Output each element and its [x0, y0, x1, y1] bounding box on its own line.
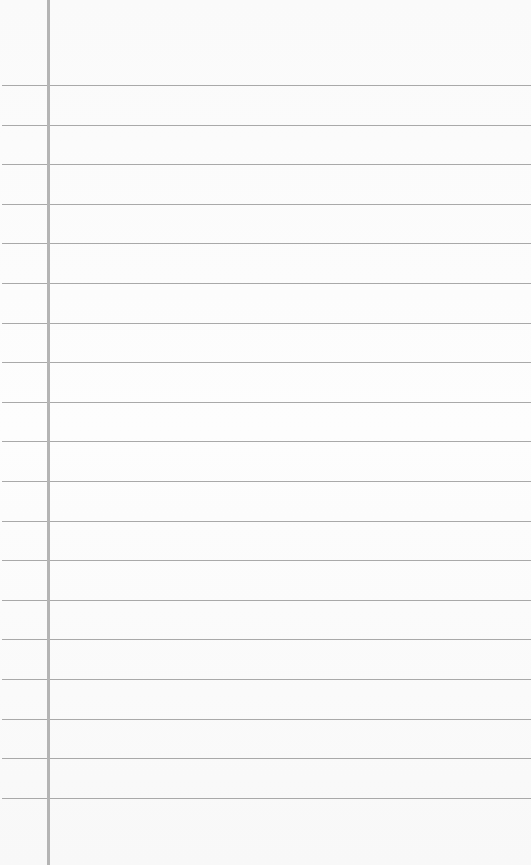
ruled-line	[2, 243, 531, 244]
ruled-line	[2, 362, 531, 363]
ruled-line	[2, 85, 531, 86]
ruled-line	[2, 164, 531, 165]
notepad-page	[0, 0, 531, 865]
ruled-line	[2, 323, 531, 324]
margin-line	[47, 0, 50, 865]
ruled-line	[2, 521, 531, 522]
ruled-line	[2, 639, 531, 640]
ruled-line	[2, 402, 531, 403]
ruled-line	[2, 719, 531, 720]
ruled-line	[2, 679, 531, 680]
ruled-line	[2, 560, 531, 561]
ruled-line	[2, 798, 531, 799]
ruled-line	[2, 441, 531, 442]
ruled-line	[2, 481, 531, 482]
ruled-line	[2, 204, 531, 205]
ruled-line	[2, 125, 531, 126]
ruled-line	[2, 758, 531, 759]
ruled-line	[2, 600, 531, 601]
ruled-line	[2, 283, 531, 284]
